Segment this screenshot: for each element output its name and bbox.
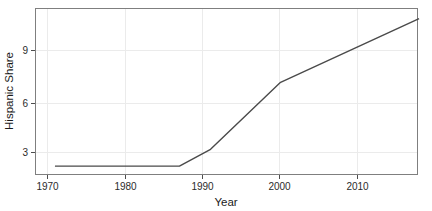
x-tick-label-1990: 1990 — [191, 181, 214, 192]
x-tick-label-1970: 1970 — [36, 181, 59, 192]
x-tick-label-2000: 2000 — [268, 181, 291, 192]
x-tick-label-2010: 2010 — [346, 181, 369, 192]
y-tick-label-6: 6 — [22, 98, 28, 109]
x-tick-label-1980: 1980 — [114, 181, 137, 192]
y-tick-label-9: 9 — [22, 45, 28, 56]
plot-panel — [36, 9, 418, 175]
x-axis-title: Year — [214, 196, 237, 208]
hispanic-share-line-chart: 3 6 9 1970 1980 1990 2000 2010 Year Hisp… — [0, 0, 432, 211]
y-tick-label-3: 3 — [22, 147, 28, 158]
y-axis-title: Hispanic Share — [3, 52, 15, 130]
